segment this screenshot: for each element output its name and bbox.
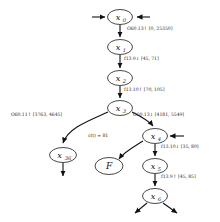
outgoing-arrow-x6-left: [135, 203, 147, 213]
node-x3[interactable]: x 3: [108, 101, 133, 116]
outgoing-arrow-x6-right: [163, 203, 177, 213]
node-x36-ellipse[interactable]: [50, 148, 77, 163]
node-x3-label: x: [116, 103, 121, 113]
edge-label-x4-x5: f13.10↓ [35, 80]: [161, 145, 199, 150]
nodes: x 0 x 1 x 2 x 3 x 36: [50, 10, 168, 204]
node-x36-label: x: [57, 150, 62, 160]
node-x5-sublabel: 5: [158, 166, 161, 172]
node-x6[interactable]: x 6: [143, 189, 168, 204]
node-x4-sublabel: 4: [157, 136, 161, 142]
diagram-canvas: x 0 x 1 x 2 x 3 x 36: [0, 0, 220, 222]
node-x4-label: x: [151, 131, 156, 141]
node-x2-label: x: [116, 73, 121, 83]
node-F-label: F: [105, 161, 113, 171]
edge-label-x3-x4: O60.13↓ [4181, 5549]: [133, 113, 184, 118]
state-transition-graph: x 0 x 1 x 2 x 3 x 36: [0, 0, 220, 222]
node-x1[interactable]: x 1: [108, 40, 133, 55]
node-x2-sublabel: 2: [122, 78, 126, 84]
node-x6-label: x: [151, 191, 156, 201]
edge-x4-F: [119, 141, 143, 159]
node-x5[interactable]: x 5: [143, 159, 168, 174]
edge-label-x3-x36: O60.11↑ [3763, 4645]: [11, 113, 62, 118]
node-x36[interactable]: x 36: [50, 148, 77, 163]
node-x0[interactable]: x 0: [108, 10, 133, 25]
edge-label-x5-x6: f13.9↑ [45, 85]: [161, 175, 196, 180]
node-x4[interactable]: x 4: [143, 129, 168, 144]
node-F[interactable]: F: [95, 158, 123, 175]
edge-label-x2-x3: f13.10↑ [70, 105]: [124, 88, 164, 93]
node-x5-label: x: [151, 161, 156, 171]
edge-label-x1-x2: f13.9↓ [45, 71]: [124, 57, 159, 62]
node-x1-label: x: [116, 42, 121, 52]
edge-label-x4-F: c(t) = 81: [88, 134, 108, 139]
node-x0-label: x: [116, 12, 121, 22]
node-x2[interactable]: x 2: [108, 71, 133, 86]
edge-label-x0-x1: O60.13↑ [0, 25350]: [127, 27, 172, 32]
node-x1-sublabel: 1: [123, 47, 126, 53]
node-x36-sublabel: 36: [65, 155, 72, 161]
